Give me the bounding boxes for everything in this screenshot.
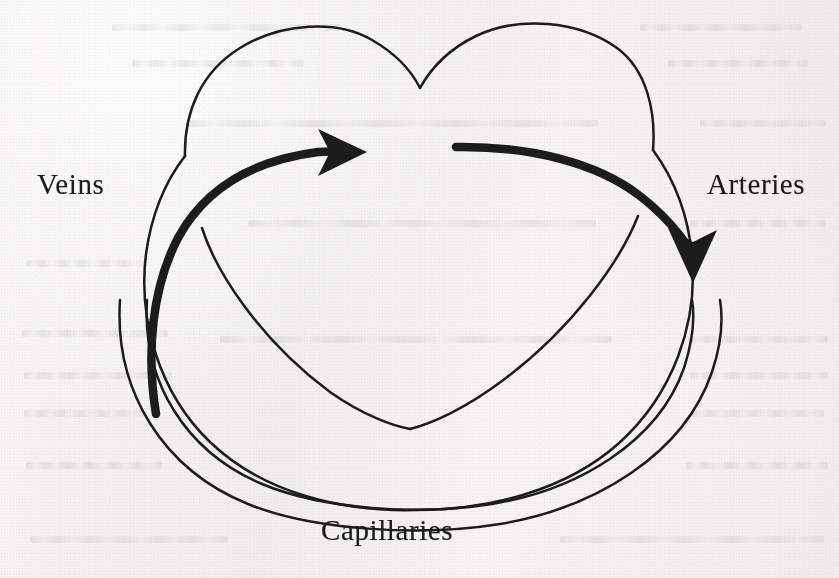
heart-outline-right-lobe [420, 24, 654, 151]
heart-inner-chevron-left-arm [202, 228, 410, 429]
heart-outline-left-lobe [185, 27, 420, 156]
blood-flow-arrow-inflow-stroke [151, 151, 342, 414]
figure-canvas: Veins Arteries Capillaries [0, 0, 839, 578]
capillary-loop-outer-curve [120, 300, 722, 530]
capillary-loop-inner-curve [147, 300, 694, 510]
blood-flow-arrowhead-down [668, 228, 717, 283]
blood-flow-arrow-outflow-stroke [456, 147, 694, 258]
label-capillaries: Capillaries [321, 516, 453, 545]
label-veins: Veins [37, 170, 104, 199]
heart-outline-left-flank [144, 156, 416, 510]
label-arteries: Arteries [707, 170, 805, 199]
circulatory-diagram-svg [0, 0, 839, 578]
heart-inner-chevron-right-arm [410, 216, 638, 429]
